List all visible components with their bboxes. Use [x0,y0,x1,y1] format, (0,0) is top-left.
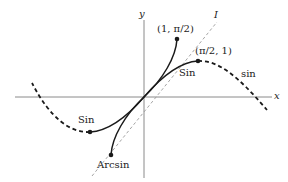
sin-arcsin-diagram [0,0,288,182]
point-lower-sin [88,130,93,135]
label-arcsin: Arcsin [97,160,129,170]
label-sin-restricted-lower: Sin [78,115,95,125]
label-sin-full: sin [241,69,256,79]
sin-curve-right-dashed [198,61,267,110]
point-lower-arcsin [109,153,114,158]
label-sin-restricted-upper: Sin [179,68,196,78]
point-label-upper-arcsin: (1, π/2) [157,24,194,34]
point-upper-sin [196,59,201,64]
x-axis-label: x [274,91,280,101]
identity-line-label: I [214,10,218,20]
point-label-upper-sin: (π/2, 1) [195,46,232,56]
point-upper-arcsin [175,37,180,42]
y-axis-label: y [139,9,145,19]
